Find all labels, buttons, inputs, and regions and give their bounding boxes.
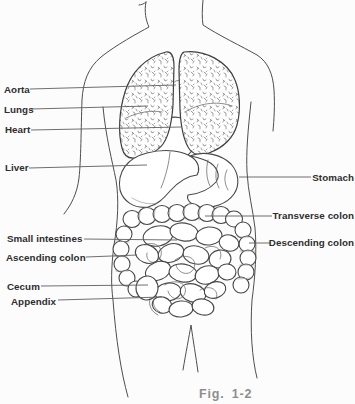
transverse-colon-label: Transverse colon (273, 210, 354, 221)
figure-caption: Fig. 1-2 (199, 387, 252, 401)
cecum-label: Cecum (7, 281, 40, 292)
appendix-label: Appendix (11, 296, 57, 307)
stomach-label: Stomach (312, 172, 354, 183)
lungs-label: Lungs (4, 104, 34, 115)
small-intestines-label: Small intestines (7, 233, 83, 244)
liver-label: Liver (5, 162, 29, 173)
crotch-line (183, 325, 198, 372)
anatomy-figure: Aorta Lungs Heart Liver Stomach Transver… (0, 0, 355, 404)
heart-label: Heart (5, 124, 31, 135)
right-lung (179, 52, 239, 155)
liver (119, 151, 198, 208)
aorta-label: Aorta (4, 84, 30, 95)
descending-colon-label: Descending colon (269, 237, 354, 248)
ascending-colon-leader-line (86, 255, 137, 257)
ascending-colon-label: Ascending colon (6, 252, 86, 263)
descending-colon-shape (233, 222, 256, 293)
small-intestine (133, 221, 241, 318)
anatomy-illustration: Aorta Lungs Heart Liver Stomach Transver… (0, 0, 355, 404)
